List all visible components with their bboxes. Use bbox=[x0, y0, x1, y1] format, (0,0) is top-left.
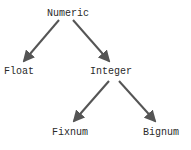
node-bignum: Bignum bbox=[143, 127, 179, 139]
edge-numeric-integer bbox=[73, 20, 109, 61]
node-integer: Integer bbox=[90, 66, 132, 78]
node-numeric: Numeric bbox=[47, 8, 89, 20]
node-fixnum: Fixnum bbox=[52, 127, 88, 139]
edge-numeric-float bbox=[24, 20, 59, 61]
edge-integer-bignum bbox=[119, 81, 155, 121]
node-float: Float bbox=[4, 66, 34, 78]
edge-integer-fixnum bbox=[74, 81, 109, 121]
caption-cut-off bbox=[0, 146, 191, 150]
